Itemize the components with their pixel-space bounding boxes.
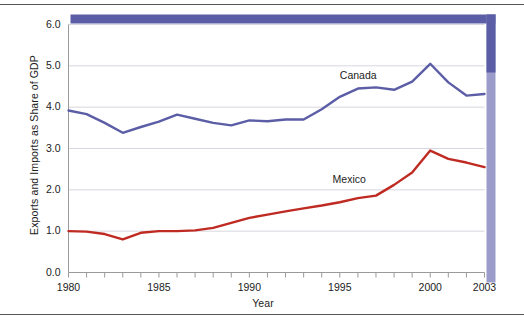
series-line-canada (69, 64, 485, 133)
x-axis-title: Year (208, 297, 318, 309)
line-chart-canvas (0, 0, 524, 326)
series-label-mexico: Mexico (333, 173, 366, 185)
x-tick-label-2003: 2003 (462, 281, 508, 293)
plot-area-wrapper: 0.01.02.03.04.05.06.0 198019851990199520… (0, 0, 524, 326)
gridlines-group (69, 25, 485, 232)
x-tick-label-1980: 1980 (46, 281, 92, 293)
x-tick-label-1995: 1995 (317, 281, 363, 293)
x-tick-label-2000: 2000 (407, 281, 453, 293)
x-tick-marks-group (69, 273, 485, 278)
right-accent-band-top (487, 15, 496, 73)
y-tick-label-0.0: 0.0 (33, 266, 61, 278)
top-accent-band (71, 15, 496, 24)
data-series-group (69, 64, 485, 240)
x-tick-label-1990: 1990 (226, 281, 272, 293)
x-tick-label-1985: 1985 (136, 281, 182, 293)
y-axis-title: Exports and Imports as Share of GDP (28, 45, 40, 245)
y-tick-label-6.0: 6.0 (33, 18, 61, 30)
chart-figure: 0.01.02.03.04.05.06.0 198019851990199520… (0, 0, 524, 326)
series-line-mexico (69, 151, 485, 240)
series-label-canada: Canada (340, 69, 377, 81)
